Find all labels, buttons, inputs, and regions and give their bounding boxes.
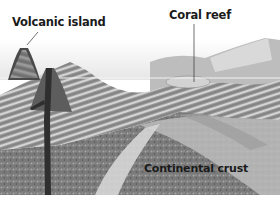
geology-cross-section [0,0,280,217]
volcanic-island-label: Volcanic island [12,15,106,29]
continental-crust-label: Continental crust [144,162,248,175]
coral-reef-label: Coral reef [169,8,231,22]
